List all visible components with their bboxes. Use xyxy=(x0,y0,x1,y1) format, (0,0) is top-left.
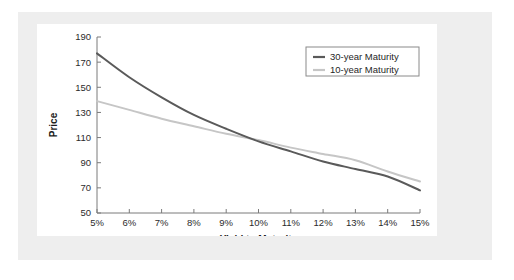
x-tick-label: 13% xyxy=(346,217,366,228)
x-tick-label: 6% xyxy=(122,217,136,228)
y-tick-label: 110 xyxy=(76,132,91,143)
x-tick-label: 14% xyxy=(378,217,398,228)
x-tick-label: 11% xyxy=(282,217,301,228)
y-tick-label: 90 xyxy=(80,157,91,168)
legend-label-2: 10-year Maturity xyxy=(330,64,399,75)
price-yield-line-chart: 5070901101301501701905%6%7%8%9%10%11%12%… xyxy=(37,24,437,236)
x-tick-label: 15% xyxy=(410,217,430,228)
y-tick-label: 190 xyxy=(75,31,91,42)
x-tick-label: 7% xyxy=(155,217,169,228)
x-tick-label: 9% xyxy=(219,217,233,228)
x-axis-title: Yield to Maturity xyxy=(220,234,298,236)
y-axis-title: Price xyxy=(48,112,59,137)
legend-label-1: 30-year Maturity xyxy=(330,51,399,62)
y-tick-label: 70 xyxy=(80,182,91,193)
y-tick-label: 150 xyxy=(75,82,91,93)
y-tick-label: 130 xyxy=(75,107,91,118)
x-tick-label: 10% xyxy=(249,217,269,228)
x-tick-label: 5% xyxy=(90,217,104,228)
figure-root: 5070901101301501701905%6%7%8%9%10%11%12%… xyxy=(0,0,514,280)
y-tick-label: 170 xyxy=(75,57,91,68)
figure-white-card: 5070901101301501701905%6%7%8%9%10%11%12%… xyxy=(37,24,437,236)
x-tick-label: 12% xyxy=(314,217,334,228)
x-tick-label: 8% xyxy=(187,217,201,228)
